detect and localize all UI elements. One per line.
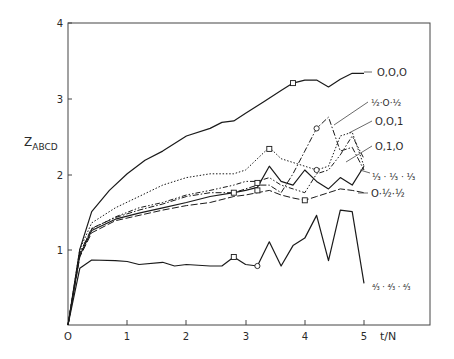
x-tick-label-4: 4	[302, 331, 308, 342]
square-marker-icon	[231, 190, 236, 195]
series-layer	[68, 73, 364, 325]
square-marker-icon	[291, 81, 296, 86]
x-axis-title: t/N	[380, 330, 396, 343]
series-line-6	[68, 210, 364, 325]
series-label-half-0-half: ½·O·½	[371, 98, 402, 108]
series-label-0-1-0: O,1,O	[375, 141, 404, 152]
chart-container: 1 2 3 4 O 1 2 3 4 5 t/N ZABCD O,O,O ½·O·…	[0, 0, 454, 359]
series-label-0-0-1: O,O,1	[375, 116, 403, 127]
series-line-0	[68, 73, 364, 325]
x-tick-label-3: 3	[243, 331, 249, 342]
square-marker-icon	[255, 180, 260, 185]
square-marker-icon	[302, 198, 307, 203]
x-tick-label-2: 2	[183, 331, 189, 342]
y-axis	[68, 23, 72, 250]
series-line-5	[68, 189, 364, 325]
series-label-0-0-0: O,O,O	[377, 67, 407, 78]
y-tick-label-3: 3	[57, 94, 63, 105]
y-tick-label-4: 4	[57, 18, 63, 29]
x-axis	[127, 320, 364, 325]
x-tick-label-1: 1	[124, 331, 130, 342]
series-line-4	[68, 166, 364, 325]
series-line-3	[68, 136, 364, 325]
circle-marker-icon	[314, 126, 319, 131]
line-chart: 1 2 3 4 O 1 2 3 4 5 t/N ZABCD O,O,O ½·O·…	[0, 0, 454, 359]
x-tick-label-0: O	[64, 331, 72, 342]
square-marker-icon	[267, 146, 272, 151]
circle-marker-icon	[314, 167, 319, 172]
square-marker-icon	[231, 255, 236, 260]
square-marker-icon	[255, 188, 260, 193]
x-tick-label-5: 5	[361, 331, 367, 342]
series-label-third-third-third: ⅓ · ⅓ · ⅓	[372, 172, 416, 182]
y-tick-label-1: 1	[57, 245, 63, 256]
circle-marker-icon	[255, 263, 260, 268]
series-label-0-half-half: O·½·½	[371, 188, 405, 199]
series-label-four-thirds: ⁴⁄₃ · ⁴⁄₃ · ⁴⁄₃	[372, 283, 411, 292]
label-leaders	[334, 72, 372, 193]
y-axis-title: ZABCD	[24, 135, 58, 152]
y-tick-label-2: 2	[57, 170, 63, 181]
